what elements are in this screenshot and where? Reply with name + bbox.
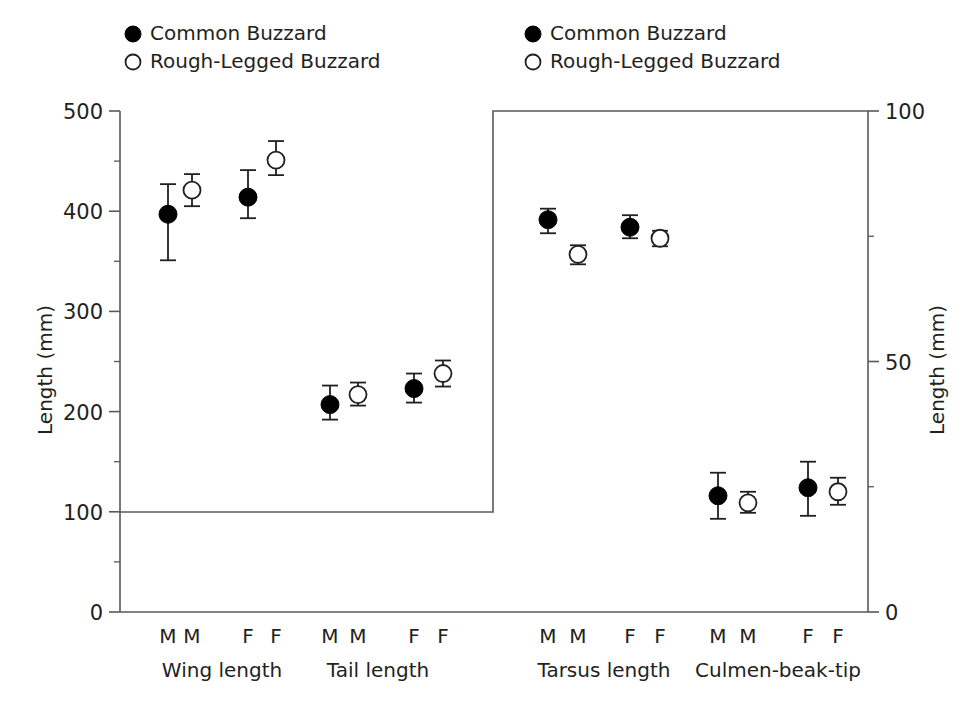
- data-point: [405, 374, 423, 403]
- data-point: [799, 462, 817, 516]
- buzzard-morphometrics-figure: 0100200300400500Length (mm)050100Length …: [0, 0, 969, 704]
- left-axis-tick-label: 400: [63, 200, 103, 224]
- series-group: [539, 209, 669, 265]
- group-axis-label: Tarsus length: [536, 658, 670, 682]
- sex-axis-label-m: M: [183, 624, 200, 648]
- marker-rough-legged-buzzard: [830, 483, 847, 500]
- legend-marker-filled-circle-icon: [125, 26, 141, 42]
- data-point: [709, 473, 727, 519]
- marker-common-buzzard: [159, 205, 177, 223]
- legend-right-entry: Common BuzzardRough-Legged Buzzard: [525, 21, 781, 73]
- data-point: [830, 478, 847, 505]
- left-axis-tick-label: 100: [63, 501, 103, 525]
- sex-axis-label-f: F: [802, 624, 814, 648]
- sex-axis-label-f: F: [242, 624, 254, 648]
- marker-common-buzzard: [405, 380, 423, 398]
- sex-axis-label-m: M: [539, 624, 556, 648]
- data-point: [159, 184, 177, 260]
- sex-axis-label-f: F: [654, 624, 666, 648]
- sex-axis-label-m: M: [709, 624, 726, 648]
- series-group: [321, 360, 452, 419]
- data-point: [740, 492, 757, 513]
- group-axis-label: Tail length: [326, 658, 429, 682]
- marker-rough-legged-buzzard: [268, 152, 285, 169]
- sex-axis-label-m: M: [349, 624, 366, 648]
- left-axis-title: Length (mm): [33, 305, 57, 435]
- left-axis-tick-label: 0: [90, 601, 103, 625]
- left-axis-tick-label: 200: [63, 401, 103, 425]
- legend-marker-open-circle-icon: [526, 55, 541, 70]
- marker-rough-legged-buzzard: [652, 230, 669, 247]
- data-point: [184, 174, 201, 206]
- sex-axis-label-m: M: [321, 624, 338, 648]
- data-point: [570, 245, 587, 264]
- group-axis-label: Wing length: [162, 658, 282, 682]
- marker-common-buzzard: [709, 487, 727, 505]
- group-axis-label: Culmen-beak-tip: [695, 658, 861, 682]
- sex-axis-label-f: F: [270, 624, 282, 648]
- series-group: [159, 141, 285, 260]
- data-point: [435, 360, 452, 386]
- marker-common-buzzard: [799, 479, 817, 497]
- marker-common-buzzard: [321, 396, 339, 414]
- left-axis-tick-label: 500: [63, 100, 103, 124]
- chart-canvas: 0100200300400500Length (mm)050100Length …: [0, 0, 969, 704]
- right-axis-tick-label: 50: [885, 351, 912, 375]
- sex-axis-label-m: M: [569, 624, 586, 648]
- data-point: [350, 383, 367, 406]
- data-point: [652, 230, 669, 247]
- legend-marker-open-circle-icon: [126, 55, 141, 70]
- panel-divider-frame: [120, 111, 868, 512]
- data-point: [621, 215, 639, 238]
- sex-axis-label-m: M: [739, 624, 756, 648]
- sex-axis-label-f: F: [408, 624, 420, 648]
- sex-axis-label-m: M: [159, 624, 176, 648]
- marker-rough-legged-buzzard: [570, 246, 587, 263]
- marker-common-buzzard: [539, 211, 557, 229]
- legend-right-entry-label: Common Buzzard: [550, 21, 727, 45]
- marker-rough-legged-buzzard: [350, 386, 367, 403]
- marker-rough-legged-buzzard: [435, 365, 452, 382]
- data-point: [321, 386, 339, 420]
- legend-left-entry: Common BuzzardRough-Legged Buzzard: [125, 21, 381, 73]
- marker-rough-legged-buzzard: [740, 494, 757, 511]
- legend-left-entry-label: Rough-Legged Buzzard: [150, 49, 381, 73]
- sex-axis-label-f: F: [832, 624, 844, 648]
- right-axis-title: Length (mm): [925, 305, 949, 435]
- left-axis-tick-label: 300: [63, 300, 103, 324]
- legend-left-entry-label: Common Buzzard: [150, 21, 327, 45]
- marker-common-buzzard: [621, 218, 639, 236]
- sex-axis-label-f: F: [624, 624, 636, 648]
- data-point: [539, 209, 557, 234]
- marker-rough-legged-buzzard: [184, 182, 201, 199]
- marker-common-buzzard: [239, 188, 257, 206]
- right-axis-tick-label: 0: [885, 601, 898, 625]
- data-point: [239, 170, 257, 218]
- right-axis-tick-label: 100: [885, 100, 925, 124]
- series-group: [709, 462, 847, 519]
- sex-axis-label-f: F: [437, 624, 449, 648]
- legend-marker-filled-circle-icon: [525, 26, 541, 42]
- data-point: [268, 141, 285, 175]
- legend-right-entry-label: Rough-Legged Buzzard: [550, 49, 781, 73]
